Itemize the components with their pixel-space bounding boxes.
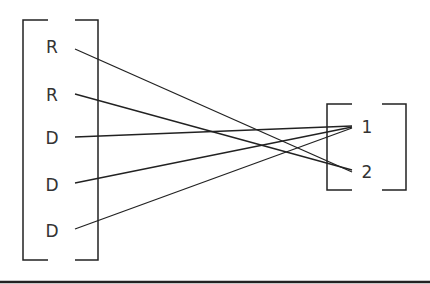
left-element-3: D [45,175,58,195]
left-element-0: R [46,37,58,57]
right-element-0: 1 [362,117,373,137]
left-bracket [23,20,98,260]
mapping-line-0 [75,49,352,172]
mapping-line-4 [75,128,352,229]
mapping-diagram: R R D D D 1 2 [0,0,430,284]
left-element-4: D [45,221,58,241]
left-element-2: D [45,128,58,148]
left-element-1: R [46,85,58,105]
right-element-1: 2 [362,162,373,182]
mapping-lines [75,49,352,229]
